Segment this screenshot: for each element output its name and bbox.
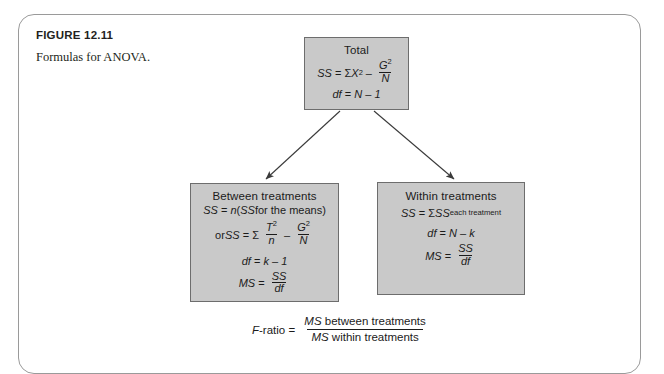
ms-label: MS [425,250,442,262]
n-variable: N [298,234,310,247]
box-within-treatments: Within treatments SS = ΣSSeach treatment… [377,182,525,295]
n-variable: N [379,72,391,85]
g-variable: G [297,221,306,233]
box-within-title: Within treatments [378,190,524,202]
box-between-title: Between treatments [191,190,338,202]
box-between-treatments: Between treatments SS = n(SS for the mea… [190,183,339,302]
g2-over-n-fraction: G2 N [295,222,312,246]
f-ratio-formula: F-ratio = MS between treatments MS withi… [252,316,432,343]
x-variable: X [351,67,358,79]
n-lower-variable: n [266,234,276,247]
box-total-title: Total [305,44,408,56]
df-expression: N – k [449,227,475,239]
equals: = [288,324,295,336]
t-variable: T [266,221,273,233]
f-label: F [252,324,259,336]
or-word: or [215,229,225,241]
df-label: df [332,88,341,100]
ms-denominator-label: MS [311,331,328,343]
ss-over-df-fraction: SS df [270,271,289,295]
ss-numerator: SS [456,243,475,255]
ss-label: SS [317,67,332,79]
ms-numerator-label: MS [304,315,321,327]
figure-caption-block: FIGURE 12.11 Formulas for ANOVA. [36,29,266,65]
ms-label: MS [239,277,256,289]
box-between-ss-formula: SS = n(SS for the means) [191,204,338,216]
g-exponent: 2 [388,58,392,67]
box-total: Total SS = Σ X2 – G2 N df = N – 1 [304,37,409,110]
sigma-icon: Σ [428,207,435,219]
ss-label: SS [203,204,218,216]
box-between-ss-alt-formula: or SS = Σ T2 n – G2 N [191,223,338,247]
f-label-rest: -ratio [259,324,285,336]
paren-close: ) [322,204,326,216]
df-expression: k – 1 [263,255,287,267]
ms-numerator-text: between treatments [322,315,426,327]
df-expression: N – 1 [354,88,380,100]
box-total-df-formula: df = N – 1 [305,88,408,100]
ms-denominator-text: within treatments [329,331,419,343]
box-total-ss-formula: SS = Σ X2 – G2 N [305,61,408,85]
box-between-df-formula: df = k – 1 [191,255,338,267]
t2-over-n-fraction: T2 n [264,222,279,246]
t-exponent: 2 [273,220,277,229]
ss-label: SS [225,229,240,241]
f-ratio-numerator: MS between treatments [300,315,429,328]
sigma-icon: Σ [252,229,259,241]
figure-number: FIGURE 12.11 [36,29,266,41]
figure-caption-text: Formulas for ANOVA. [36,50,266,65]
box-between-ms-formula: MS = SS df [191,271,338,295]
inner-ss-label: SS [240,204,255,216]
df-denominator: df [459,255,472,268]
box-within-ms-formula: MS = SS df [378,244,524,268]
df-label: df [427,227,436,239]
f-ratio-fraction: MS between treatments MS within treatmen… [300,315,429,342]
ss-inner-label: SS [435,207,450,219]
box-within-df-formula: df = N – k [378,227,524,239]
g-variable: G [379,59,388,71]
ss-label: SS [401,207,416,219]
g2-over-n-fraction: G2 N [377,60,394,84]
df-label: df [242,255,251,267]
box-within-ss-formula: SS = ΣSSeach treatment [378,207,524,219]
ss-numerator: SS [270,271,289,283]
ss-over-df-fraction: SS df [456,243,475,267]
inner-ss-text: for the means [255,204,322,216]
f-ratio-denominator: MS within treatments [307,329,422,343]
g-exponent: 2 [306,220,310,229]
df-denominator: df [272,282,285,295]
